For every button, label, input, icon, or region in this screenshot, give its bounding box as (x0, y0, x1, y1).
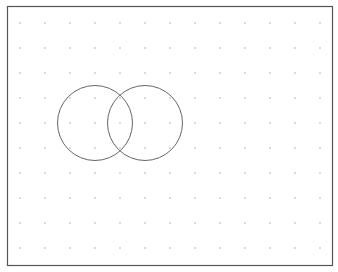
grid-dot (244, 197, 245, 198)
grid-dot (319, 47, 320, 48)
grid-dot (219, 147, 220, 148)
grid-dot (269, 122, 270, 123)
grid-dot (244, 72, 245, 73)
grid-dot (144, 247, 145, 248)
grid-dot (244, 122, 245, 123)
grid-dot (69, 47, 70, 48)
grid-dot (169, 97, 170, 98)
grid-dot (169, 47, 170, 48)
grid-dot (194, 172, 195, 173)
grid-dot (294, 22, 295, 23)
grid-dot (269, 47, 270, 48)
grid-dot (94, 172, 95, 173)
grid-dot (144, 122, 145, 123)
grid-dot (219, 72, 220, 73)
grid-dot (194, 72, 195, 73)
grid-dot (19, 222, 20, 223)
grid-dot (219, 122, 220, 123)
grid-dot (69, 172, 70, 173)
grid-dot (119, 47, 120, 48)
grid-dot (319, 147, 320, 148)
grid-dot (69, 22, 70, 23)
grid-dot (194, 222, 195, 223)
grid-dot (44, 222, 45, 223)
grid-dot (19, 47, 20, 48)
grid-dot (69, 247, 70, 248)
grid-dot (119, 172, 120, 173)
grid-dot (244, 247, 245, 248)
grid-dot (94, 197, 95, 198)
grid-dot (244, 222, 245, 223)
grid-dot (319, 172, 320, 173)
grid-dot (44, 197, 45, 198)
grid-dot (144, 172, 145, 173)
grid-dot (219, 197, 220, 198)
grid-dot (144, 197, 145, 198)
grid-dot (144, 72, 145, 73)
grid-dot (244, 97, 245, 98)
grid-dot (119, 22, 120, 23)
grid-dot (244, 47, 245, 48)
grid-dot (19, 172, 20, 173)
grid-dot (194, 22, 195, 23)
grid-dot (194, 147, 195, 148)
grid-dot (194, 97, 195, 98)
grid-dot (119, 147, 120, 148)
grid-dot (319, 122, 320, 123)
grid-dot (169, 22, 170, 23)
grid-dot (44, 72, 45, 73)
grid-dot (44, 122, 45, 123)
grid-dot (144, 222, 145, 223)
grid-dot (144, 22, 145, 23)
grid-dot (169, 222, 170, 223)
grid-dot (269, 247, 270, 248)
grid-dot (19, 72, 20, 73)
grid-dot (219, 172, 220, 173)
grid-dot (94, 147, 95, 148)
grid-dot (169, 197, 170, 198)
grid-dot (294, 197, 295, 198)
grid-dot (144, 97, 145, 98)
grid-dot (319, 222, 320, 223)
grid-dot (219, 22, 220, 23)
grid-dot (19, 122, 20, 123)
grid-dot (194, 247, 195, 248)
grid-dot (19, 22, 20, 23)
grid-dot (169, 72, 170, 73)
grid-dot (94, 122, 95, 123)
grid-dot (119, 222, 120, 223)
grid-dot (319, 22, 320, 23)
grid-dot (94, 222, 95, 223)
grid-dot (94, 72, 95, 73)
grid-dot (94, 247, 95, 248)
grid-dot (319, 97, 320, 98)
grid-dot (169, 247, 170, 248)
grid-dot (94, 22, 95, 23)
grid-dot (194, 197, 195, 198)
grid-dot (269, 197, 270, 198)
grid-dot (294, 72, 295, 73)
grid-dot (119, 72, 120, 73)
grid-dot (69, 197, 70, 198)
grid-dot (19, 247, 20, 248)
drawing-canvas[interactable] (0, 0, 338, 272)
grid-dot (169, 172, 170, 173)
grid-dot (219, 222, 220, 223)
grid-dot (19, 147, 20, 148)
grid-dot (69, 222, 70, 223)
grid-dot (294, 222, 295, 223)
grid-dot (319, 72, 320, 73)
grid-dot (244, 172, 245, 173)
grid-dot (94, 97, 95, 98)
dot-grid (19, 22, 320, 248)
grid-dot (244, 22, 245, 23)
grid-dot (294, 122, 295, 123)
grid-dot (269, 172, 270, 173)
grid-dot (319, 247, 320, 248)
grid-dot (69, 147, 70, 148)
grid-dot (269, 222, 270, 223)
grid-dot (269, 147, 270, 148)
grid-dot (194, 47, 195, 48)
grid-dot (69, 72, 70, 73)
grid-dot (269, 97, 270, 98)
